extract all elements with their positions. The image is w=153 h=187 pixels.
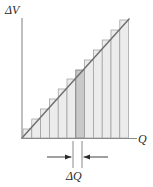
bar: [120, 20, 129, 138]
x-axis-label: Q: [138, 133, 147, 145]
bar: [85, 60, 94, 138]
bar: [93, 50, 102, 138]
bar-highlighted: [67, 79, 76, 138]
y-axis-label: ΔV: [5, 4, 19, 16]
bar: [111, 30, 120, 138]
bar: [102, 40, 111, 138]
delta-q-label: ΔQ: [66, 170, 82, 182]
bar-delta-q: [76, 70, 85, 138]
delta-q-marker: [47, 141, 108, 168]
figure-container: ΔV Q ΔQ: [0, 0, 153, 187]
chart-canvas: [0, 0, 153, 187]
bar: [23, 129, 32, 138]
bar: [49, 99, 58, 138]
